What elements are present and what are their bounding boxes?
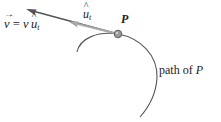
- vector-arrow-accent: →: [4, 9, 14, 19]
- unit-subscript: t: [89, 13, 91, 22]
- point-highlight: [116, 32, 118, 34]
- velocity-equation-label: →v = v ^ut: [4, 18, 39, 32]
- hat-accent: ^: [31, 11, 37, 21]
- velocity-symbol: v: [4, 17, 10, 31]
- hat-accent: ^: [83, 1, 89, 11]
- point-p-label: P: [121, 13, 128, 25]
- velocity-vector-symbol: →v: [4, 18, 10, 31]
- unit-tangent-symbol: ^u: [83, 8, 89, 20]
- unit-tangent-arrow: [72, 23, 118, 35]
- path-curve: [77, 33, 157, 117]
- speed-symbol: v: [23, 17, 29, 31]
- unit-subscript: t: [37, 23, 39, 32]
- unit-tangent-label: ^ut: [83, 8, 91, 22]
- path-label: path of P: [159, 64, 203, 76]
- path-label-text: path of: [159, 63, 196, 77]
- point-p-icon: [114, 30, 122, 38]
- path-label-var: P: [196, 63, 203, 77]
- diagram-canvas: →v = v ^ut ^ut P path of P: [0, 0, 221, 122]
- equals-sign: =: [10, 17, 23, 31]
- unit-tangent-symbol: ^u: [31, 18, 37, 31]
